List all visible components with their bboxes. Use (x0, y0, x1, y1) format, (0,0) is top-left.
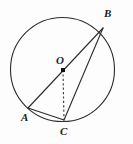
chord-a-b (28, 28, 103, 108)
radius-o-c-dashed (63, 70, 64, 120)
point-label-b: B (104, 8, 111, 19)
chord-a-c (28, 108, 64, 120)
geometry-canvas (0, 0, 133, 144)
point-label-o: O (56, 55, 64, 66)
point-label-c: C (60, 126, 67, 137)
chord-b-c (64, 28, 103, 120)
point-label-a: A (21, 112, 28, 123)
center-marker (61, 68, 65, 72)
geometry-figure: B O A C (0, 0, 133, 144)
